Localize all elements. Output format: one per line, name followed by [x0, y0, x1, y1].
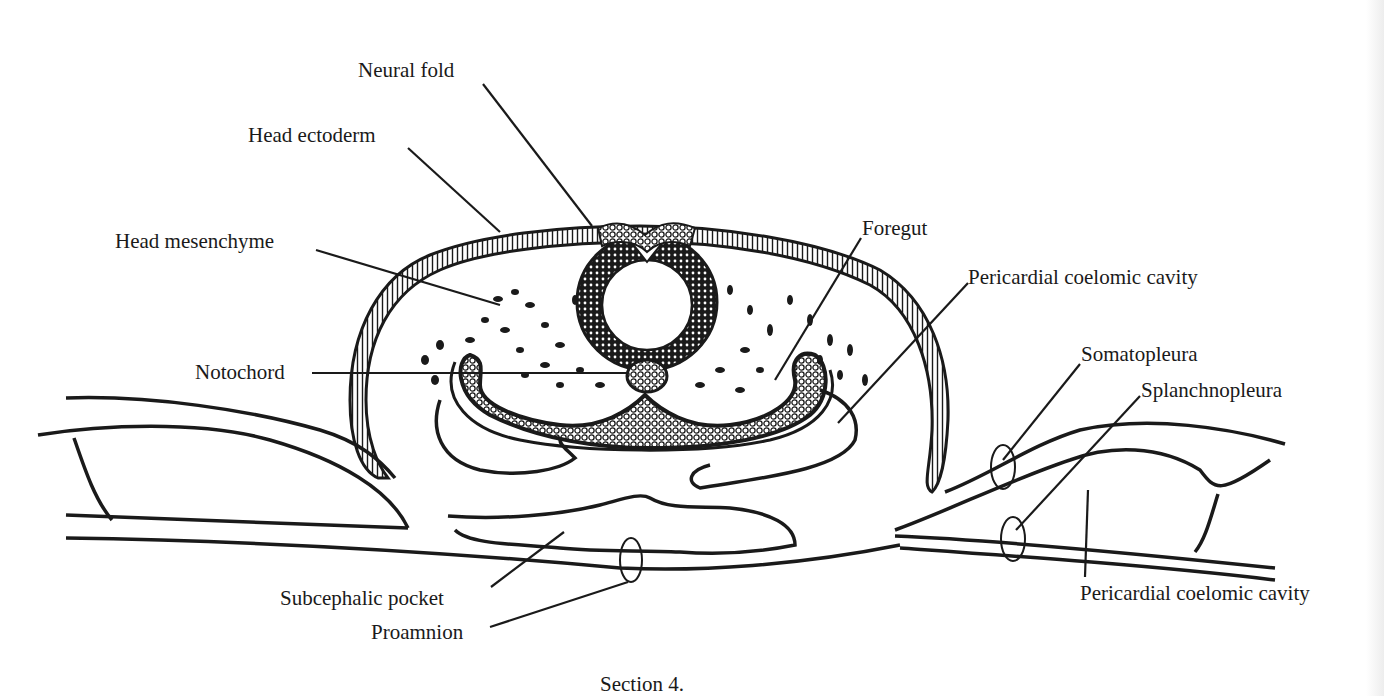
notochord-shape [627, 360, 667, 392]
label-somatopleura: Somatopleura [1081, 344, 1198, 365]
label-subcephalic-pocket: Subcephalic pocket [280, 588, 444, 609]
label-neural-fold: Neural fold [358, 60, 454, 81]
page-edge-shadow [1366, 0, 1384, 696]
label-head-mesenchyme: Head mesenchyme [115, 231, 274, 252]
label-proamnion: Proamnion [371, 622, 463, 643]
label-head-ectoderm: Head ectoderm [248, 125, 376, 146]
right-membranes [895, 423, 1285, 580]
label-pericardial-coelomic-cavity-upper: Pericardial coelomic cavity [968, 267, 1198, 288]
figure-caption: Section 4. [600, 672, 684, 696]
subcephalic-pocket-shape [448, 496, 795, 553]
leader-lines [312, 84, 1140, 627]
embryo-section-diagram: Neural fold Head ectoderm Head mesenchym… [0, 0, 1384, 696]
region-markers [620, 445, 1025, 582]
label-splanchnopleura: Splanchnopleura [1141, 380, 1282, 401]
label-pericardial-coelomic-cavity-lower: Pericardial coelomic cavity [1080, 583, 1310, 604]
label-notochord: Notochord [195, 362, 285, 383]
label-foregut: Foregut [862, 218, 927, 239]
